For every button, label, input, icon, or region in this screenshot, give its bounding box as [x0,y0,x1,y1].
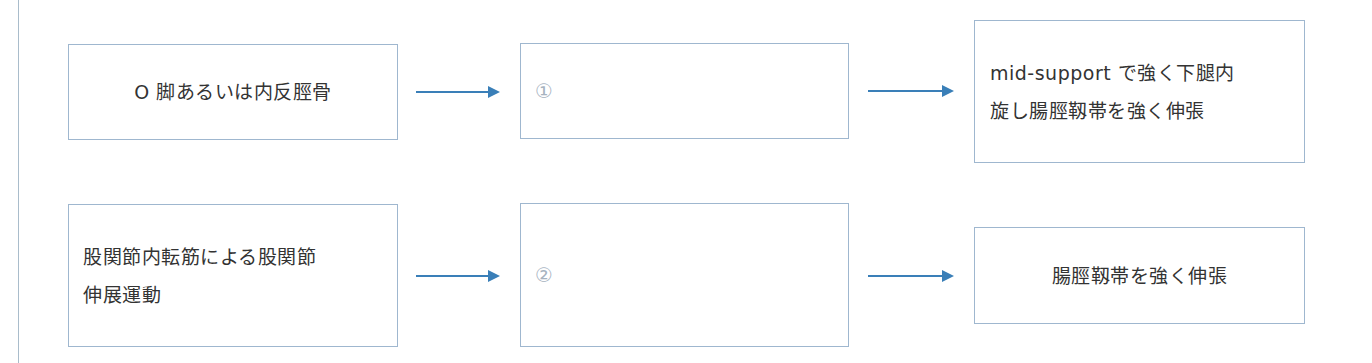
row2-cause-box: 股関節内転筋による股関節 伸展運動 [68,204,398,347]
row2-arrow-2-icon [868,270,954,282]
row2-result-box: 腸脛靱帯を強く伸張 [974,227,1305,324]
row1-cause-box: O 脚あるいは内反脛骨 [68,44,398,140]
row2-result-text: 腸脛靱帯を強く伸張 [1052,257,1228,295]
row1-blank-number: ① [535,72,553,110]
row1-result-text: mid-support で強く下腿内 旋し腸脛靱帯を強く伸張 [990,54,1235,130]
row1-arrow-1-icon [416,86,500,98]
row2-cause-text: 股関節内転筋による股関節 伸展運動 [83,238,316,314]
row1-arrow-2-icon [868,85,954,97]
row1-result-box: mid-support で強く下腿内 旋し腸脛靱帯を強く伸張 [974,20,1305,163]
row2-blank-number: ② [535,256,553,294]
row1-blank-box-1[interactable]: ① [520,43,849,139]
row2-blank-box-2[interactable]: ② [520,203,849,347]
row2-arrow-1-icon [416,270,500,282]
row1-cause-text: O 脚あるいは内反脛骨 [134,73,332,111]
left-margin-rule [18,0,19,363]
